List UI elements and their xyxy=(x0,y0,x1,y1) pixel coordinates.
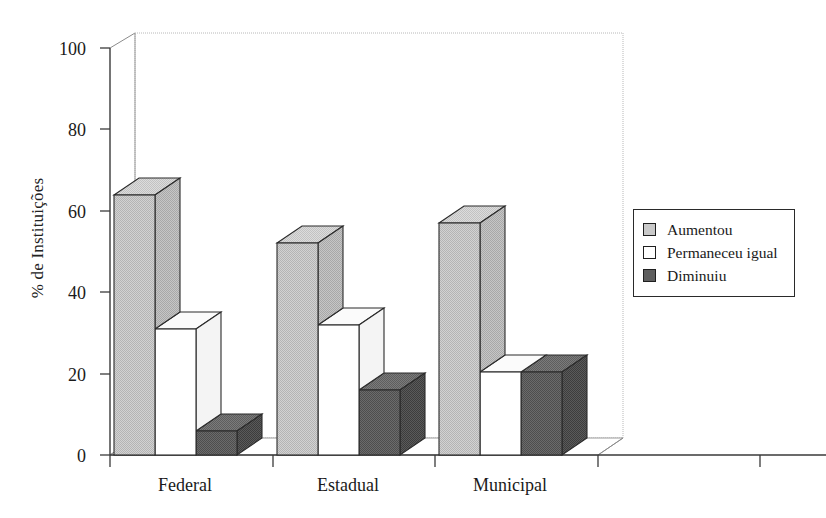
legend-label-aumentou: Aumentou xyxy=(667,222,732,238)
bar-chart: % de Instituições 100 80 60 40 20 0 Fede… xyxy=(0,0,826,518)
legend-swatch-icon-permaneceu-igual xyxy=(643,246,656,259)
legend-item-diminuiu[interactable]: Diminuiu xyxy=(643,264,785,287)
depth-edge-top xyxy=(110,33,135,48)
legend-swatch-icon-aumentou xyxy=(643,223,656,236)
legend-swatch-icon-diminuiu xyxy=(643,269,656,282)
legend-label-permaneceu-igual: Permaneceu igual xyxy=(667,245,778,261)
legend-item-permaneceu-igual[interactable]: Permaneceu igual xyxy=(643,241,785,264)
legend: Aumentou Permaneceu igual Diminuiu xyxy=(633,209,795,297)
legend-item-aumentou[interactable]: Aumentou xyxy=(643,218,785,241)
legend-label-diminuiu: Diminuiu xyxy=(667,268,726,284)
bar-municipal-diminuiu[interactable] xyxy=(521,355,587,455)
bar-estadual-diminuiu[interactable] xyxy=(359,373,425,455)
